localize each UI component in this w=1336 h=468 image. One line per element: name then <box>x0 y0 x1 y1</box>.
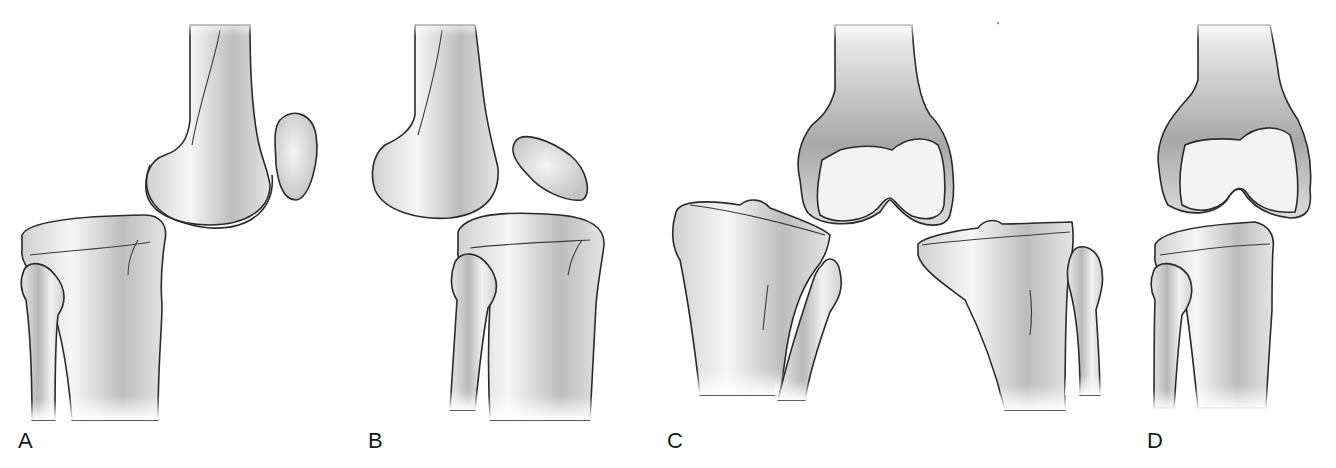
femur-bone <box>798 18 954 225</box>
femur-bone <box>1158 18 1311 218</box>
fibula-right-bone <box>1065 247 1105 395</box>
patella-bone <box>513 137 587 201</box>
knee-lateral-illustration-a <box>0 0 340 468</box>
femur-bone <box>372 18 498 218</box>
panel-label-c: C <box>667 428 683 454</box>
knee-anterior-illustration-c <box>660 0 1130 468</box>
knee-anterior-illustration-d <box>1130 0 1336 468</box>
tibia-right-bone <box>918 221 1073 410</box>
panel-b: B <box>360 0 620 468</box>
fibula-bone <box>21 264 65 420</box>
femur-bone <box>146 18 272 228</box>
panel-label-a: A <box>18 428 33 454</box>
panel-label-b: B <box>368 428 383 454</box>
knee-lateral-illustration-b <box>360 0 620 468</box>
panel-label-d: D <box>1147 428 1163 454</box>
panel-d: D <box>1130 0 1336 468</box>
patella-bone <box>275 113 317 200</box>
panel-c: C <box>660 0 1130 468</box>
fibula-bone <box>1150 264 1192 410</box>
speck <box>997 22 999 24</box>
panel-a: A <box>0 0 340 468</box>
